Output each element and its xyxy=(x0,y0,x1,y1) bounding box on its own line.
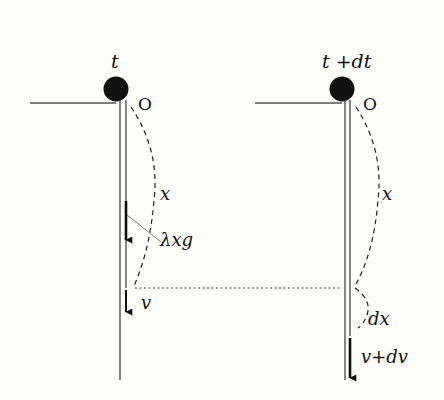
left-length-label: x xyxy=(160,183,170,204)
right-time-label: t +dt xyxy=(322,50,372,72)
falling-chain-diagram: t O x λxg v t +dt O x dx v+dv xyxy=(0,0,444,400)
left-time-label: t xyxy=(111,50,119,72)
increment-label: dx xyxy=(368,308,390,329)
left-origin-label: O xyxy=(138,94,152,114)
increment-brace xyxy=(355,288,368,328)
left-pulley-ball xyxy=(104,77,129,102)
right-state: t +dt O x dx v+dv xyxy=(255,50,408,380)
left-velocity-label: v xyxy=(141,292,151,313)
right-length-label: x xyxy=(382,183,392,204)
right-pulley-ball xyxy=(330,77,355,102)
left-state: t O x λxg v xyxy=(30,50,193,380)
left-length-brace xyxy=(131,107,155,286)
force-label: λxg xyxy=(159,229,193,250)
right-length-brace xyxy=(355,107,379,286)
right-velocity-label: v+dv xyxy=(361,346,408,367)
force-leader-line xyxy=(127,215,161,242)
right-origin-label: O xyxy=(363,94,377,114)
